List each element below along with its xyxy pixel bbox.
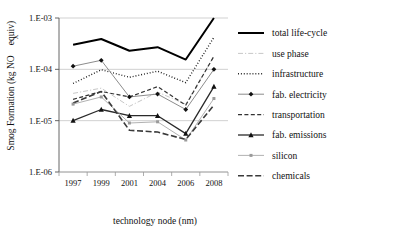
y-tick-label-2: 1.E-05 — [29, 116, 52, 126]
marker-silicon-4 — [184, 139, 187, 142]
marker-silicon-5 — [212, 97, 215, 100]
legend-label-use-phase: use phase — [272, 49, 309, 59]
y-axis-title-tail: equiv) — [6, 21, 17, 45]
y-tick-label-0: 1.E-03 — [29, 13, 52, 23]
legend-label-total-life-cycle: total life-cycle — [272, 28, 327, 38]
x-tick-label-1: 1999 — [93, 178, 110, 188]
chart-background — [0, 0, 398, 230]
x-tick-label-3: 2004 — [149, 178, 167, 188]
legend-label-fab-emissions: fab. emissions — [272, 130, 327, 140]
marker-silicon-0 — [72, 103, 75, 106]
marker-silicon-1 — [100, 95, 103, 98]
legend-label-chemicals: chemicals — [272, 171, 310, 181]
x-axis-title: technology node (nm) — [113, 216, 197, 227]
legend-label-silicon: silicon — [272, 151, 298, 161]
marker-silicon-2 — [128, 122, 131, 125]
x-tick-label-2: 2001 — [121, 178, 138, 188]
y-tick-label-3: 1.E-06 — [29, 167, 52, 177]
x-tick-label-5: 2008 — [205, 178, 222, 188]
chart-canvas: 1.E-031.E-041.E-051.E-06 199719992001200… — [0, 0, 398, 230]
legend-label-transportation: transportation — [272, 110, 325, 120]
legend-label-infrastructure: infrastructure — [272, 69, 323, 79]
legend-marker-silicon — [250, 154, 253, 157]
legend-label-fab-electricity: fab. electricity — [272, 90, 327, 100]
y-tick-label-1: 1.E-04 — [29, 64, 53, 74]
x-tick-label-0: 1997 — [65, 178, 82, 188]
smog-formation-chart-figure: 1.E-031.E-041.E-051.E-06 199719992001200… — [0, 0, 398, 230]
x-tick-label-4: 2006 — [177, 178, 194, 188]
marker-silicon-3 — [156, 120, 159, 123]
y-axis-title-main: Smog Formation (kg NO — [6, 55, 17, 150]
